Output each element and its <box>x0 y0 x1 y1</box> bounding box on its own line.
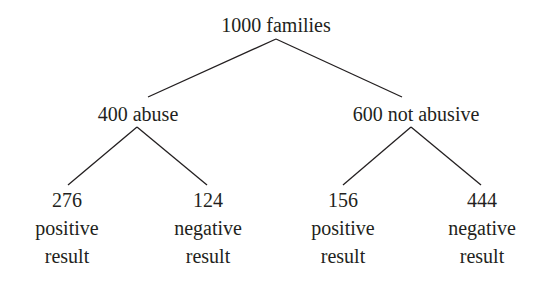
leaf-abuse-negative: 124 negative result <box>174 186 242 270</box>
leaf-not-abusive-negative: 444 negative result <box>448 186 516 270</box>
leaf-count: 276 <box>35 186 98 214</box>
edge-abuse-to-positive <box>68 127 137 185</box>
leaf-count: 156 <box>311 186 374 214</box>
leaf-result-type: negative <box>174 214 242 242</box>
leaf-not-abusive-positive: 156 positive result <box>311 186 374 270</box>
leaf-count: 444 <box>448 186 516 214</box>
edge-root-to-abuse <box>148 39 276 97</box>
leaf-result-word: result <box>448 242 516 270</box>
branch-abuse-label: 400 abuse <box>98 103 179 125</box>
edge-abuse-to-negative <box>137 127 207 185</box>
root-node-label: 1000 families <box>221 14 330 36</box>
leaf-result-word: result <box>311 242 374 270</box>
edge-not-abusive-to-positive <box>343 127 411 185</box>
leaf-result-word: result <box>35 242 98 270</box>
leaf-result-word: result <box>174 242 242 270</box>
leaf-result-type: positive <box>311 214 374 242</box>
edge-root-to-not-abusive <box>276 39 402 97</box>
leaf-abuse-positive: 276 positive result <box>35 186 98 270</box>
edge-not-abusive-to-negative <box>411 127 481 185</box>
leaf-result-type: positive <box>35 214 98 242</box>
leaf-result-type: negative <box>448 214 516 242</box>
branch-not-abusive-label: 600 not abusive <box>353 103 480 125</box>
leaf-count: 124 <box>174 186 242 214</box>
